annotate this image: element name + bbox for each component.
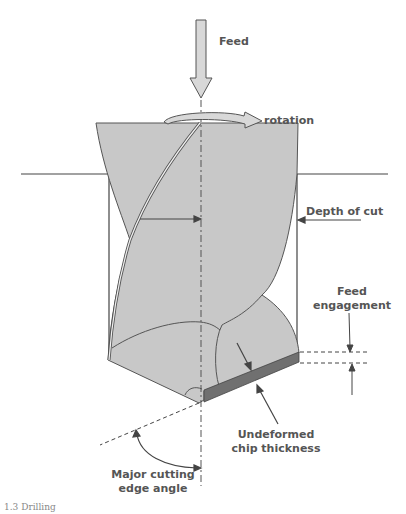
figure-caption: 1.3 Drilling — [4, 502, 56, 512]
feed-engagement-line1: Feed — [312, 285, 392, 299]
cutting-angle-line1: Major cutting — [108, 468, 198, 482]
chip-thickness-line2: chip thickness — [226, 442, 326, 456]
drilling-diagram — [0, 0, 406, 514]
rotation-label: rotation — [264, 114, 314, 128]
chip-thickness-label: Undeformed chip thickness — [226, 428, 326, 456]
feed-engagement-label: Feed engagement — [312, 285, 392, 313]
chip-thickness-line1: Undeformed — [226, 428, 326, 442]
cutting-angle-label: Major cutting edge angle — [108, 468, 198, 496]
feed-label: Feed — [219, 35, 249, 49]
chip-thickness-pointer — [257, 385, 278, 424]
cutting-edge-extension — [100, 403, 199, 445]
drill-body — [96, 123, 299, 403]
feed-engagement-line2: engagement — [312, 299, 392, 313]
feed-engagement-markers — [300, 313, 368, 395]
feed-arrow-icon — [190, 20, 212, 98]
depth-of-cut-label: Depth of cut — [306, 205, 383, 219]
cutting-angle-line2: edge angle — [108, 482, 198, 496]
cutting-angle-arc — [133, 430, 201, 471]
